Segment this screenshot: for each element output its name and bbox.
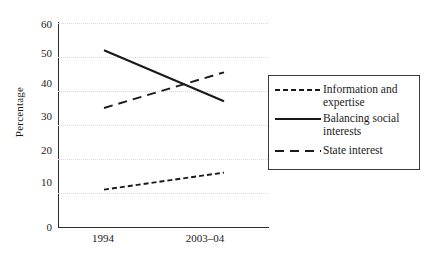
- legend-item-information-and-expertise[interactable]: Information and expertise: [269, 83, 419, 109]
- dashed-long-line-icon: [275, 144, 321, 158]
- y-tick-label-40: 40: [20, 78, 52, 89]
- legend-label-state-interest: State interest: [321, 144, 383, 157]
- legend-item-balancing-social-interests[interactable]: Balancing social interests: [269, 112, 419, 138]
- y-tick-label-10: 10: [20, 177, 52, 188]
- legend-label-line2: interests: [323, 125, 361, 137]
- x-tick-label-2003-04: 2003–04: [172, 233, 238, 244]
- y-tick-label-20: 20: [20, 145, 52, 156]
- y-tick-label-60: 60: [20, 19, 52, 30]
- legend-label-balancing-social-interests: Balancing social interests: [321, 112, 399, 138]
- legend-label-line1: Information and: [323, 83, 397, 95]
- legend-label-information-and-expertise: Information and expertise: [321, 83, 397, 109]
- series-line-state-interest: [104, 72, 224, 108]
- legend-item-state-interest[interactable]: State interest: [269, 144, 419, 158]
- legend-label-line1: State interest: [323, 144, 383, 156]
- x-axis-line: [58, 227, 269, 228]
- line-chart: Percentage 60 50 40 30 20 10 0 1994 2003…: [0, 0, 434, 266]
- series-line-information-and-expertise: [104, 173, 224, 190]
- y-tick-label-30: 30: [20, 111, 52, 122]
- legend-label-line1: Balancing social: [323, 112, 399, 124]
- solid-line-icon: [275, 112, 321, 126]
- dashed-short-line-icon: [275, 83, 321, 97]
- series-line-balancing-social-interests: [104, 50, 224, 101]
- series-lines: [58, 23, 268, 227]
- y-tick-label-0: 0: [20, 222, 52, 233]
- plot-area: [58, 23, 268, 227]
- legend: Information and expertise Balancing soci…: [268, 75, 420, 170]
- x-tick-label-1994: 1994: [78, 233, 128, 244]
- y-tick-label-50: 50: [20, 48, 52, 59]
- legend-label-line2: expertise: [323, 96, 365, 108]
